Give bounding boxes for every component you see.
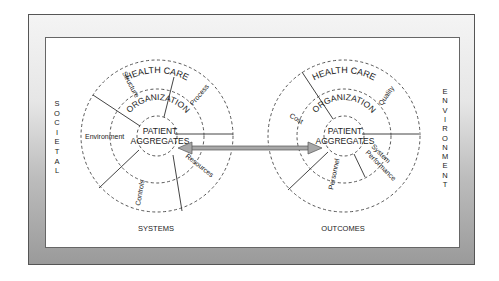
aggregates-label: AGGREGATES xyxy=(316,136,375,146)
side-label-letter: O xyxy=(54,109,60,118)
systems-title: SYSTEMS xyxy=(138,224,174,233)
diagram-canvas: SOCIETAL ENVIRONMENT HEALTH CARE ORGANIZ… xyxy=(0,0,499,281)
side-label-letter: L xyxy=(55,166,59,175)
side-label-letter: M xyxy=(442,152,448,161)
controls-label: Controls xyxy=(134,179,146,206)
side-label-letter: C xyxy=(54,118,60,127)
side-label-letter: T xyxy=(443,180,448,189)
environment-label-group: ENVIRONMENT xyxy=(442,87,448,189)
aggregates-label: AGGREGATES xyxy=(131,136,190,146)
side-label-letter: T xyxy=(55,147,60,156)
side-label-letter: I xyxy=(444,115,446,124)
cost-label: Cost xyxy=(289,112,305,125)
health-care-label: HEALTH CARE xyxy=(311,65,378,82)
side-label-letter: N xyxy=(442,171,447,180)
health-care-label: HEALTH CARE xyxy=(124,65,191,82)
process-label: Process xyxy=(188,82,210,106)
side-label-letter: N xyxy=(442,96,447,105)
side-label-letter: R xyxy=(442,124,448,133)
outcomes-title: OUTCOMES xyxy=(321,224,364,233)
societal-label-group: SOCIETAL xyxy=(54,99,60,175)
side-label-letter: O xyxy=(442,134,448,143)
environment-segment-label: Environment xyxy=(85,133,124,140)
side-label-letter: E xyxy=(54,137,59,146)
side-label-letter: V xyxy=(442,106,447,115)
side-label-letter: E xyxy=(442,87,447,96)
side-label-letter: A xyxy=(54,157,59,166)
side-label-letter: E xyxy=(442,161,447,170)
quality-label: Quality xyxy=(377,84,396,107)
patient-label: PATIENT xyxy=(143,126,178,136)
patient-label: PATIENT xyxy=(328,126,363,136)
resources-label: Resources xyxy=(184,152,215,178)
side-label-letter: S xyxy=(54,99,59,108)
organization-label: ORGANIZATION xyxy=(310,92,378,115)
side-label-letter: N xyxy=(442,143,447,152)
personnel-label: Personnel xyxy=(327,157,340,190)
side-label-letter: I xyxy=(56,128,58,137)
double-arrow-icon xyxy=(178,142,322,154)
